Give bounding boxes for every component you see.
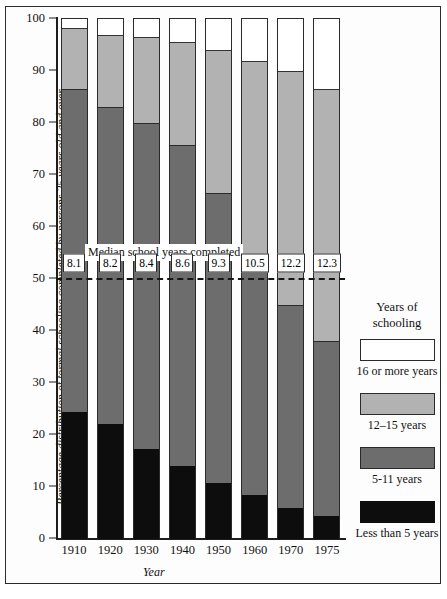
legend-item: 5-11 years	[352, 447, 442, 487]
segment-5-11-years	[278, 305, 303, 508]
x-axis-tick-label: 1970	[278, 543, 303, 558]
median-reference-line	[56, 278, 345, 280]
segment-16-or-more-years	[98, 19, 123, 35]
segment-5-11-years	[314, 341, 339, 515]
segment-12-15-years	[206, 50, 231, 193]
legend-label: Less than 5 years	[352, 526, 442, 541]
segment-5-11-years	[62, 89, 87, 411]
segment-12-15-years	[314, 89, 339, 341]
legend-item: 16 or more years	[352, 339, 442, 379]
y-axis-tick-label: 70	[33, 167, 50, 182]
y-axis-tick-mark	[49, 485, 56, 487]
y-axis-tick: 30	[33, 375, 57, 390]
y-axis-tick: 50	[33, 271, 57, 286]
y-axis-tick-mark	[49, 329, 56, 331]
y-axis-tick: 40	[33, 323, 57, 338]
segment-16-or-more-years	[170, 19, 195, 42]
x-axis-tick-label: 1920	[98, 543, 123, 558]
y-axis-tick: 0	[39, 531, 56, 546]
legend-title-line2: schooling	[352, 316, 442, 332]
segment-less-than-5-years	[98, 424, 123, 539]
y-axis-tick-label: 0	[39, 531, 49, 546]
y-axis-tick: 60	[33, 219, 57, 234]
legend-label: 12–15 years	[352, 418, 442, 433]
y-axis-tick-label: 60	[33, 219, 50, 234]
y-axis-tick-mark	[49, 537, 56, 539]
y-axis-tick-label: 90	[33, 63, 50, 78]
segment-12-15-years	[170, 42, 195, 144]
y-axis-tick-label: 100	[26, 11, 49, 26]
segment-less-than-5-years	[170, 466, 195, 539]
median-value-tag: 8.6	[171, 254, 193, 273]
y-axis-tick: 70	[33, 167, 57, 182]
x-axis-tick-label: 1960	[242, 543, 267, 558]
x-axis-tick-label: 1940	[170, 543, 195, 558]
legend-label: 16 or more years	[352, 364, 442, 379]
y-axis-tick-mark	[49, 433, 56, 435]
legend-label: 5-11 years	[352, 472, 442, 487]
segment-less-than-5-years	[242, 495, 267, 539]
y-axis-tick: 100	[26, 11, 56, 26]
median-value-tag: 8.1	[63, 254, 85, 273]
y-axis-tick: 10	[33, 479, 57, 494]
y-axis-tick: 20	[33, 427, 57, 442]
y-axis-tick: 90	[33, 63, 57, 78]
x-axis-tick-label: 1930	[134, 543, 159, 558]
legend-title: Years of schooling	[352, 300, 442, 331]
x-axis-tick-label: 1910	[62, 543, 87, 558]
legend-swatch	[360, 501, 435, 523]
segment-16-or-more-years	[278, 19, 303, 71]
chart-legend: Years of schooling 16 or more years12–15…	[352, 300, 442, 555]
plot-area: 0102030405060708090100Median school year…	[56, 18, 345, 538]
segment-16-or-more-years	[242, 19, 267, 61]
legend-item: Less than 5 years	[352, 501, 442, 541]
chart-page: Percentage distribution of formal school…	[0, 0, 447, 599]
y-axis-tick: 80	[33, 115, 57, 130]
legend-item: 12–15 years	[352, 393, 442, 433]
y-axis-tick-mark	[49, 17, 56, 19]
segment-12-15-years	[98, 35, 123, 108]
y-axis-tick-mark	[49, 277, 56, 279]
segment-12-15-years	[62, 28, 87, 89]
y-axis-tick-label: 30	[33, 375, 50, 390]
segment-16-or-more-years	[314, 19, 339, 89]
segment-less-than-5-years	[134, 449, 159, 539]
y-axis-tick-mark	[49, 121, 56, 123]
segment-less-than-5-years	[278, 508, 303, 539]
segment-less-than-5-years	[314, 516, 339, 539]
x-axis-title: Year	[143, 565, 165, 580]
segment-16-or-more-years	[134, 19, 159, 37]
median-value-tag: 8.4	[135, 254, 157, 273]
legend-swatch	[360, 339, 435, 361]
y-axis-tick-mark	[49, 225, 56, 227]
median-value-tag: 12.2	[277, 254, 305, 273]
x-axis-tick-label: 1975	[314, 543, 339, 558]
y-axis-tick-label: 40	[33, 323, 50, 338]
y-axis-tick-mark	[49, 69, 56, 71]
legend-items: 16 or more years12–15 years5-11 yearsLes…	[352, 339, 442, 541]
x-axis-tick-label: 1950	[206, 543, 231, 558]
segment-5-11-years	[242, 263, 267, 494]
median-value-tag: 9.3	[208, 254, 230, 273]
median-value-tag: 12.3	[313, 254, 341, 273]
segment-12-15-years	[242, 61, 267, 264]
y-axis-tick-label: 20	[33, 427, 50, 442]
median-value-tag: 10.5	[241, 254, 269, 273]
legend-title-line1: Years of	[352, 300, 442, 316]
legend-swatch	[360, 447, 435, 469]
legend-swatch	[360, 393, 435, 415]
y-axis-tick-label: 10	[33, 479, 50, 494]
segment-5-11-years	[134, 123, 159, 449]
segment-16-or-more-years	[62, 19, 87, 28]
y-axis-tick-label: 50	[33, 271, 50, 286]
y-axis-tick-mark	[49, 381, 56, 383]
segment-less-than-5-years	[62, 412, 87, 539]
y-axis-tick-label: 80	[33, 115, 50, 130]
segment-16-or-more-years	[206, 19, 231, 50]
y-axis-tick-mark	[49, 173, 56, 175]
segment-5-11-years	[170, 145, 195, 466]
median-value-tag: 8.2	[99, 254, 121, 273]
segment-less-than-5-years	[206, 483, 231, 539]
segment-12-15-years	[134, 37, 159, 123]
segment-5-11-years	[206, 193, 231, 483]
